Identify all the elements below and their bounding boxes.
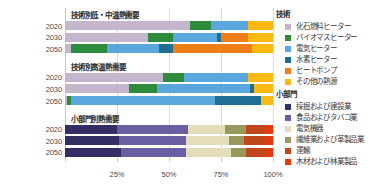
legend-item-label: 電気機器 <box>296 123 323 134</box>
year-axis-labels: 202020302050202020302050202020302050 <box>24 8 62 158</box>
x-tick-label: 50% <box>161 170 176 179</box>
legend-item-label: 食品およびタバコ業 <box>296 112 357 123</box>
year-label: 2020 <box>28 125 62 134</box>
bar-segment <box>159 44 174 53</box>
legend-swatch-icon <box>285 79 291 85</box>
legend-swatch-icon <box>285 57 291 63</box>
legend-item[interactable]: 採掘および建設業 <box>276 101 364 112</box>
bar-segment <box>119 136 186 145</box>
legend-swatch-icon <box>285 35 291 41</box>
bar-row <box>65 136 273 145</box>
legend-item[interactable]: ヒートポンプ <box>276 65 357 76</box>
bar-segment <box>244 136 265 145</box>
bar-segment <box>117 125 188 134</box>
legend-item-label: バイオマスヒーター <box>296 32 357 43</box>
bar-segment <box>129 84 156 93</box>
legend-swatch-icon <box>285 137 291 143</box>
bar-segment <box>265 125 273 134</box>
legend-swatch-icon <box>285 68 291 74</box>
bar-segment <box>215 96 261 105</box>
bar-segment <box>188 125 225 134</box>
legend-item[interactable]: 電気機器 <box>276 123 364 134</box>
bar-segment <box>211 21 248 30</box>
bar-segment <box>231 148 246 157</box>
bar-row <box>65 125 273 134</box>
year-label: 2030 <box>28 33 62 42</box>
year-label: 2030 <box>28 137 62 146</box>
bar-segment <box>65 84 129 93</box>
legend-swatch-icon <box>285 24 291 30</box>
bar-row <box>65 96 273 105</box>
bar-segment <box>71 44 106 53</box>
year-label: 2020 <box>28 22 62 31</box>
bar-segment <box>148 33 173 42</box>
bar-segment <box>163 73 184 82</box>
bar-segment <box>261 96 273 105</box>
bar-segment <box>248 33 273 42</box>
section-title-2: 小部門別熱需要 <box>71 113 119 124</box>
legend-item-label: 水素ヒーター <box>296 54 337 65</box>
bar-row <box>65 44 273 53</box>
bar-segment <box>254 84 273 93</box>
bar-segment <box>65 125 117 134</box>
legend-item[interactable]: 水素ヒーター <box>276 54 357 65</box>
x-tick-mark <box>117 158 118 162</box>
bar-segment <box>246 148 265 157</box>
bar-segment <box>265 136 273 145</box>
legend-item-label: 運輸 <box>296 145 310 156</box>
legend-item-label: その他の熱源 <box>296 76 337 87</box>
legend-item-label: 化石燃料ヒーター <box>296 21 350 32</box>
bar-segment <box>221 33 248 42</box>
legend-item[interactable]: 電気ヒーター <box>276 43 357 54</box>
bar-segment <box>190 21 211 30</box>
legend-item[interactable]: 食品およびタバコ業 <box>276 112 364 123</box>
legend-subsector-items: 採掘および建設業食品およびタバコ業電気機器繊維業および革製品業運輸木材および林業… <box>276 101 364 167</box>
x-tick-mark <box>65 158 66 162</box>
x-tick-mark <box>169 158 170 162</box>
legend-item-label: 採掘および建設業 <box>296 101 350 112</box>
x-tick-label: 75% <box>213 170 228 179</box>
legend-item[interactable]: 木材および林業製品 <box>276 156 364 167</box>
legend-item[interactable]: 化石燃料ヒーター <box>276 21 357 32</box>
bar-segment <box>65 33 148 42</box>
bar-segment <box>173 33 217 42</box>
bar-segment <box>184 73 248 82</box>
bar-segment <box>229 136 244 145</box>
legend-swatch-icon <box>285 104 291 110</box>
bar-segment <box>248 73 273 82</box>
year-label: 2020 <box>28 73 62 82</box>
bar-segment <box>65 21 190 30</box>
legend-swatch-icon <box>285 159 291 165</box>
year-label: 2050 <box>28 148 62 157</box>
gridline-100 <box>273 8 274 158</box>
legend-subsector-title: 小部門 <box>276 88 364 99</box>
legend-item-label: 木材および林業製品 <box>296 156 357 167</box>
bar-segment <box>65 148 121 157</box>
plot-area: 25%50%75%100% <box>65 8 273 158</box>
bar-segment <box>173 44 252 53</box>
bar-segment <box>252 44 273 53</box>
legend-item-label: ヒートポンプ <box>296 65 337 76</box>
legend-item[interactable]: 繊維業および革製品業 <box>276 134 364 145</box>
x-tick-label: 25% <box>109 170 124 179</box>
legend-item[interactable]: その他の熱源 <box>276 76 357 87</box>
legend-subsector: 小部門 採掘および建設業食品およびタバコ業電気機器繊維業および革製品業運輸木材お… <box>276 88 364 167</box>
x-tick-mark <box>221 158 222 162</box>
legend-swatch-icon <box>285 148 291 154</box>
bar-segment <box>107 44 159 53</box>
year-label: 2050 <box>28 45 62 54</box>
section-title-1: 技術別高温熱需要 <box>71 61 125 72</box>
legend-item[interactable]: 運輸 <box>276 145 364 156</box>
bar-row <box>65 148 273 157</box>
legend-item-label: 繊維業および革製品業 <box>296 134 364 145</box>
bar-segment <box>225 125 246 134</box>
year-label: 2030 <box>28 85 62 94</box>
bar-segment <box>157 84 251 93</box>
legend-technology-title: 技術 <box>276 8 357 19</box>
legend-item[interactable]: バイオマスヒーター <box>276 32 357 43</box>
bar-segment <box>248 21 273 30</box>
year-label: 2050 <box>28 97 62 106</box>
legend-swatch-icon <box>285 115 291 121</box>
section-title-0: 技術別低・中温熱需要 <box>71 9 139 20</box>
x-tick-label: 100% <box>263 170 282 179</box>
